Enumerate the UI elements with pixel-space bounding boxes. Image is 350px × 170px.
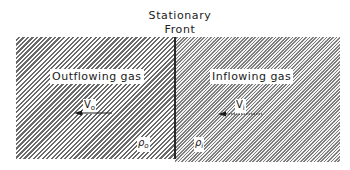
density-outflow-label: ρo — [137, 137, 150, 152]
density-inflow-label: ρi — [194, 137, 204, 152]
stationary-front-line — [174, 37, 176, 159]
title-stationary: Stationary — [130, 9, 230, 23]
outflowing-gas-region — [16, 37, 174, 159]
velocity-symbol: V — [84, 99, 91, 110]
inflowing-gas-label: Inflowing gas — [210, 69, 293, 84]
title-front: Front — [130, 23, 230, 37]
left-arrow-icon — [218, 111, 264, 117]
left-arrow-icon — [74, 110, 114, 116]
density-subscript: i — [201, 142, 203, 150]
velocity-symbol: V — [236, 99, 243, 110]
density-subscript: o — [144, 142, 148, 150]
outflowing-gas-label: Outflowing gas — [50, 69, 144, 84]
